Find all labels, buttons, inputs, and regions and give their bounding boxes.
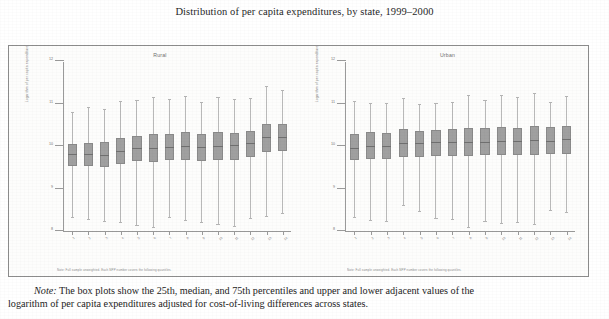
x-axis-tick-label: 12 (251, 236, 256, 241)
median-line (213, 146, 222, 147)
x-axis-tick (283, 231, 284, 235)
x-axis-tick-label: 8 (468, 236, 472, 240)
median-line (366, 146, 375, 147)
whisker-line (386, 104, 387, 221)
box-plot (262, 61, 271, 231)
x-axis-tick (501, 231, 502, 235)
box-plot (149, 61, 158, 231)
median-line (497, 141, 506, 142)
lower-adjacent-cap (233, 226, 236, 227)
lower-adjacent-cap (353, 217, 356, 218)
panel-urban-title: Urban (305, 52, 589, 58)
lower-adjacent-cap (418, 211, 421, 212)
lower-adjacent-cap (549, 210, 552, 211)
lower-adjacent-cap (533, 224, 536, 225)
x-axis-tick (436, 231, 437, 235)
median-line (530, 140, 539, 141)
median-line (513, 141, 522, 142)
x-axis-tick-label: 11 (234, 236, 239, 241)
median-line (165, 147, 174, 148)
y-axis-tick: 12 (337, 60, 346, 61)
x-axis-tick-label: 7 (169, 236, 173, 240)
upper-adjacent-cap (402, 98, 405, 99)
upper-adjacent-cap (483, 100, 486, 101)
lower-adjacent-cap (369, 220, 372, 221)
y-axis-tick-label: 10 (331, 142, 335, 146)
x-axis-tick (371, 231, 372, 235)
x-axis-tick (469, 231, 470, 235)
x-axis-tick-label: 5 (419, 236, 423, 240)
lower-adjacent-cap (500, 223, 503, 224)
median-line (149, 148, 158, 149)
box-plot (230, 61, 239, 231)
lower-adjacent-cap (119, 222, 122, 223)
x-axis-tick-label: 4 (403, 236, 407, 240)
y-axis-tick: 11 (337, 103, 346, 104)
figure-note: Note: The box plots show the 25th, media… (34, 284, 609, 310)
whisker-line (501, 96, 502, 224)
x-axis-tick (186, 231, 187, 235)
lower-adjacent-cap (385, 221, 388, 222)
upper-adjacent-cap (119, 101, 122, 102)
box-plot (246, 61, 255, 231)
x-axis-tick (387, 231, 388, 235)
lower-adjacent-cap (216, 224, 219, 225)
whisker-line (485, 101, 486, 222)
lower-adjacent-cap (135, 225, 138, 226)
lower-adjacent-cap (516, 222, 519, 223)
x-axis-tick-label: 3 (386, 236, 390, 240)
box-plot (530, 61, 539, 231)
note-line-1: The box plots show the 25th, median, and… (59, 285, 474, 296)
y-axis-tick: 9 (55, 188, 64, 189)
upper-adjacent-cap (265, 86, 268, 87)
panel-urban-footnote: Note: Full sample unweighted. Each NPP n… (347, 268, 584, 272)
lower-adjacent-cap (87, 219, 90, 220)
box-plot (116, 61, 125, 231)
lower-adjacent-cap (434, 218, 437, 219)
median-line (278, 137, 287, 138)
median-line (132, 148, 141, 149)
median-line (68, 154, 77, 155)
box-iqr (278, 124, 287, 151)
median-line (84, 154, 93, 155)
x-axis-tick (137, 231, 138, 235)
x-axis-tick-label: 9 (201, 236, 205, 240)
box-plot (181, 61, 190, 231)
x-axis-tick (234, 231, 235, 235)
x-axis-tick (550, 231, 551, 235)
median-line (230, 145, 239, 146)
upper-adjacent-cap (565, 96, 568, 97)
lower-adjacent-cap (103, 221, 106, 222)
x-axis-tick (72, 231, 73, 235)
box-plot (480, 61, 489, 231)
median-line (350, 148, 359, 149)
box-plot (366, 61, 375, 231)
x-axis-tick-label: 13 (551, 236, 556, 241)
whisker-line (550, 103, 551, 212)
x-axis-tick (267, 231, 268, 235)
upper-adjacent-cap (549, 102, 552, 103)
median-line (431, 142, 440, 143)
y-axis-tick-label: 8 (333, 227, 335, 231)
y-axis-tick: 10 (337, 145, 346, 146)
x-axis-tick (105, 231, 106, 235)
upper-adjacent-cap (385, 103, 388, 104)
whisker-line (266, 87, 267, 217)
median-line (116, 151, 125, 152)
chart-frame: Rural Logarithm of per capita expenditur… (8, 45, 589, 277)
y-axis-tick-label: 9 (333, 185, 335, 189)
whisker-line (517, 98, 518, 224)
upper-adjacent-cap (418, 104, 421, 105)
lower-adjacent-cap (168, 217, 171, 218)
lower-adjacent-cap (483, 221, 486, 222)
lower-adjacent-cap (200, 222, 203, 223)
whisker-line (566, 97, 567, 213)
upper-adjacent-cap (434, 103, 437, 104)
note-line-2: logarithm of per capita expenditures adj… (8, 297, 609, 310)
y-axis-tick-label: 12 (49, 57, 53, 61)
lower-adjacent-cap (467, 227, 470, 228)
median-line (399, 143, 408, 144)
median-line (562, 139, 571, 140)
panel-rural-title: Rural (15, 52, 305, 58)
box-plot (84, 61, 93, 231)
